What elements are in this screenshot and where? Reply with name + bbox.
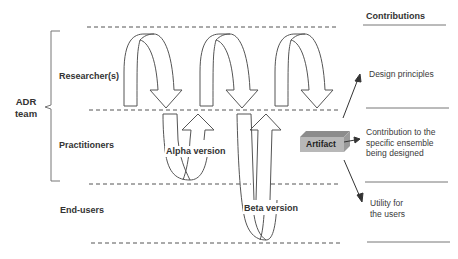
alpha-version-label: Alpha version [165, 146, 227, 157]
contributions-header: Contributions [366, 11, 425, 22]
arrowhead-icon-2 [354, 137, 360, 143]
contribution-design-principles: Design principles [369, 69, 434, 80]
arrowhead-icon-1 [355, 74, 361, 82]
adr-team-bracket [45, 31, 60, 181]
contribution-ensemble: Contribution to the specific ensemble be… [366, 127, 435, 159]
artifact-box-top [300, 131, 350, 137]
adr-team-label: ADR team [12, 96, 40, 120]
arrow-to-design-principles [343, 79, 358, 118]
role-label-practitioners: Practitioners [59, 140, 114, 151]
role-label-researchers: Researcher(s) [59, 71, 119, 82]
contribution-utility: Utility for the users [370, 198, 405, 219]
researcher-loop-arrows [124, 34, 333, 108]
beta-version-arrow [237, 114, 281, 240]
role-label-end-users: End-users [60, 205, 104, 216]
arrow-to-utility [344, 160, 360, 197]
loop-arrow-icon-3 [275, 34, 333, 108]
artifact-label: Artifact [306, 139, 336, 149]
loop-arrow-icon-1 [124, 34, 182, 108]
loop-arrow-icon-2 [200, 34, 258, 108]
arrowhead-icon-3 [357, 193, 363, 202]
adr-diagram: ADR team Researcher(s) Practitioners End… [0, 0, 458, 259]
beta-version-label: Beta version [243, 203, 299, 214]
